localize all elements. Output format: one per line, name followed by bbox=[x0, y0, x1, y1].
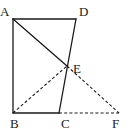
label-c: C bbox=[61, 116, 70, 129]
segment-be bbox=[13, 66, 67, 113]
label-d: D bbox=[79, 4, 88, 19]
label-f: F bbox=[112, 116, 119, 129]
label-e: E bbox=[73, 61, 81, 76]
segment-ae bbox=[13, 19, 67, 66]
solid-segments bbox=[13, 19, 76, 113]
label-b: B bbox=[10, 116, 19, 129]
geometry-diagram: A D E B C F bbox=[0, 0, 128, 129]
label-a: A bbox=[0, 4, 10, 19]
